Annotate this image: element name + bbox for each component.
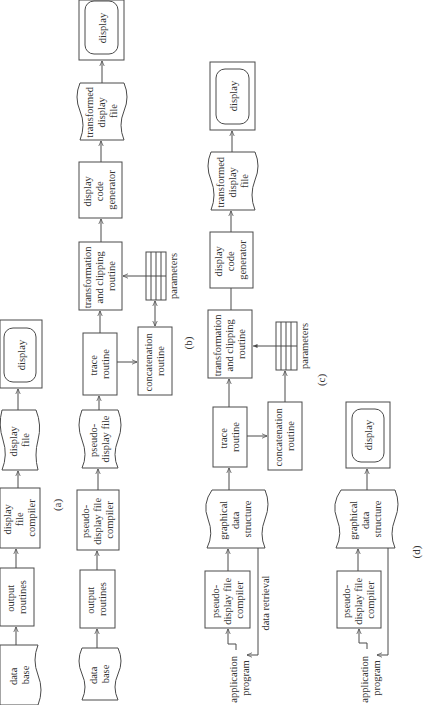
panel-d: application program pseudo- display file… [335,402,423,703]
c-transformation-clipping-node: transformation and clipping routine [208,310,252,378]
panel-c: application program pseudo- display file… [205,62,328,703]
d-app-line2: program [371,660,382,696]
b-tc-line1: transformation [82,246,93,309]
c-pseudo-compiler-node: pseudo- display file compiler [205,571,250,628]
c-compiler-line1: pseudo- [210,584,221,618]
svg-text:pseudo- display file: pseudo- display file compiler [80,495,115,545]
b-code-generator-node: display code generator [79,162,122,218]
c-tfile-line3: file [239,174,250,188]
a-output-routines-node: output routines [0,568,34,626]
c-concatenation-node: concatenation routine [268,402,302,470]
a-output-line2: routines [17,580,28,614]
b-codegen-line1: display [82,175,93,206]
svg-text:display: display [228,80,239,111]
b-output-line2: routines [97,582,108,616]
b-data-base-line1: data [88,666,99,684]
b-parameters-label: parameters [168,253,179,299]
svg-text:display: display [97,12,108,43]
c-trace-routine-node: trace routine [213,407,247,467]
c-tfile-line1: transformed [215,156,226,207]
b-pseudofile-line1: pseudo- [88,423,99,457]
a-display-file-node: display file [0,410,39,470]
d-gds-line2: data [360,511,371,529]
c-gds-line2: data [230,511,241,529]
c-compiler-line2: display file [222,578,233,625]
c-gds-line3: structure [242,500,253,537]
a-data-base-node: data base [0,645,41,705]
c-concat-line2: routine [285,421,296,451]
b-tc-line2: and clipping [94,250,105,303]
d-display-node: display [346,402,390,468]
b-concat-line2: routine [155,346,166,376]
b-display-node: display [79,0,124,60]
c-parameters-node: parameters [276,322,310,370]
b-transformed-file-node: transformed display file [77,83,127,140]
a-compiler-line2: file [14,512,25,526]
b-codegen-line2: code [94,181,105,201]
c-graphical-data-structure-node: graphical data structure [206,490,268,548]
c-tc-line3: routine [236,329,247,359]
a-displayfile-line1: display [8,425,19,456]
c-transformed-file-node: transformed display file [208,152,258,210]
a-compiler-line3: compiler [26,499,37,537]
b-data-base-node: data base [79,648,121,700]
c-display-label: display [228,80,239,111]
svg-text:trace routine: trace routine [218,422,241,452]
svg-text:output routines: output routines [85,582,108,616]
b-parameters-node: parameters [146,252,179,300]
display-pipeline-diagram: data base output routines display file c… [0,0,423,705]
svg-text:display: display [16,339,27,370]
b-trace-line1: trace [88,355,99,376]
panel-a: data base output routines display file c… [0,320,64,705]
d-compiler-line1: pseudo- [341,584,352,618]
c-concat-line1: concatenation [273,407,284,466]
svg-text:data base: data base [8,665,31,685]
d-compiler-line2: display file [353,578,364,625]
d-display-label: display [363,419,374,450]
a-data-base-line2: base [20,665,31,684]
c-tc-line2: and clipping [224,318,235,371]
d-gds-line3: structure [372,500,383,537]
b-output-line1: output [85,587,96,614]
d-compiler-line3: compiler [365,581,376,619]
svg-text:pseudo- display file: pseudo- display file compiler [210,575,245,625]
a-display-node: display [0,320,42,388]
a-output-line1: output [5,585,16,612]
diagram-canvas: data base output routines display file c… [0,0,423,705]
c-display-node: display [210,62,255,130]
b-tfile-line2: display [96,96,107,127]
c-data-retrieval-label: data retrieval [260,575,271,630]
c-tc-line1: transformation [212,314,223,377]
caption-d: (d) [410,545,423,558]
d-app-line1: application [359,655,370,702]
d-application-program: application program [359,653,382,702]
svg-text:output routines: output routines [5,580,28,614]
b-concatenation-node: concatenation routine [138,327,172,395]
c-trace-line1: trace [218,428,229,449]
c-edge-app-compiler [228,629,236,650]
a-data-base-line1: data [8,667,19,685]
c-compiler-line3: compiler [234,581,245,619]
b-output-routines-node: output routines [80,570,115,628]
c-codegen-line2: code [225,251,236,271]
b-compiler-line3: compiler [104,501,115,539]
b-tc-line3: routine [106,261,117,291]
a-displayfile-line2: file [20,433,31,447]
b-codegen-line3: generator [106,170,117,210]
b-compiler-line2: display file [92,498,103,545]
c-application-program: application program [228,653,251,702]
b-transformation-clipping-node: transformation and clipping routine [79,242,122,310]
b-tfile-line1: transformed [84,86,95,137]
b-tfile-line3: file [108,104,119,118]
a-display-file-compiler-node: display file compiler [0,488,40,548]
svg-text:trace routine: trace routine [88,349,111,379]
svg-text:data base: data base [88,664,111,684]
panel-b: data base output routines pseudo- displa… [77,0,195,700]
c-tfile-line2: display [227,166,238,197]
svg-text:pseudo- display file: pseudo- display file [88,415,111,462]
b-trace-line2: routine [100,349,111,379]
c-trace-line2: routine [230,422,241,452]
b-pseudofile-line2: display file [100,415,111,462]
caption-b: (b) [182,336,195,349]
d-pseudo-compiler-node: pseudo- display file compiler [337,571,381,628]
